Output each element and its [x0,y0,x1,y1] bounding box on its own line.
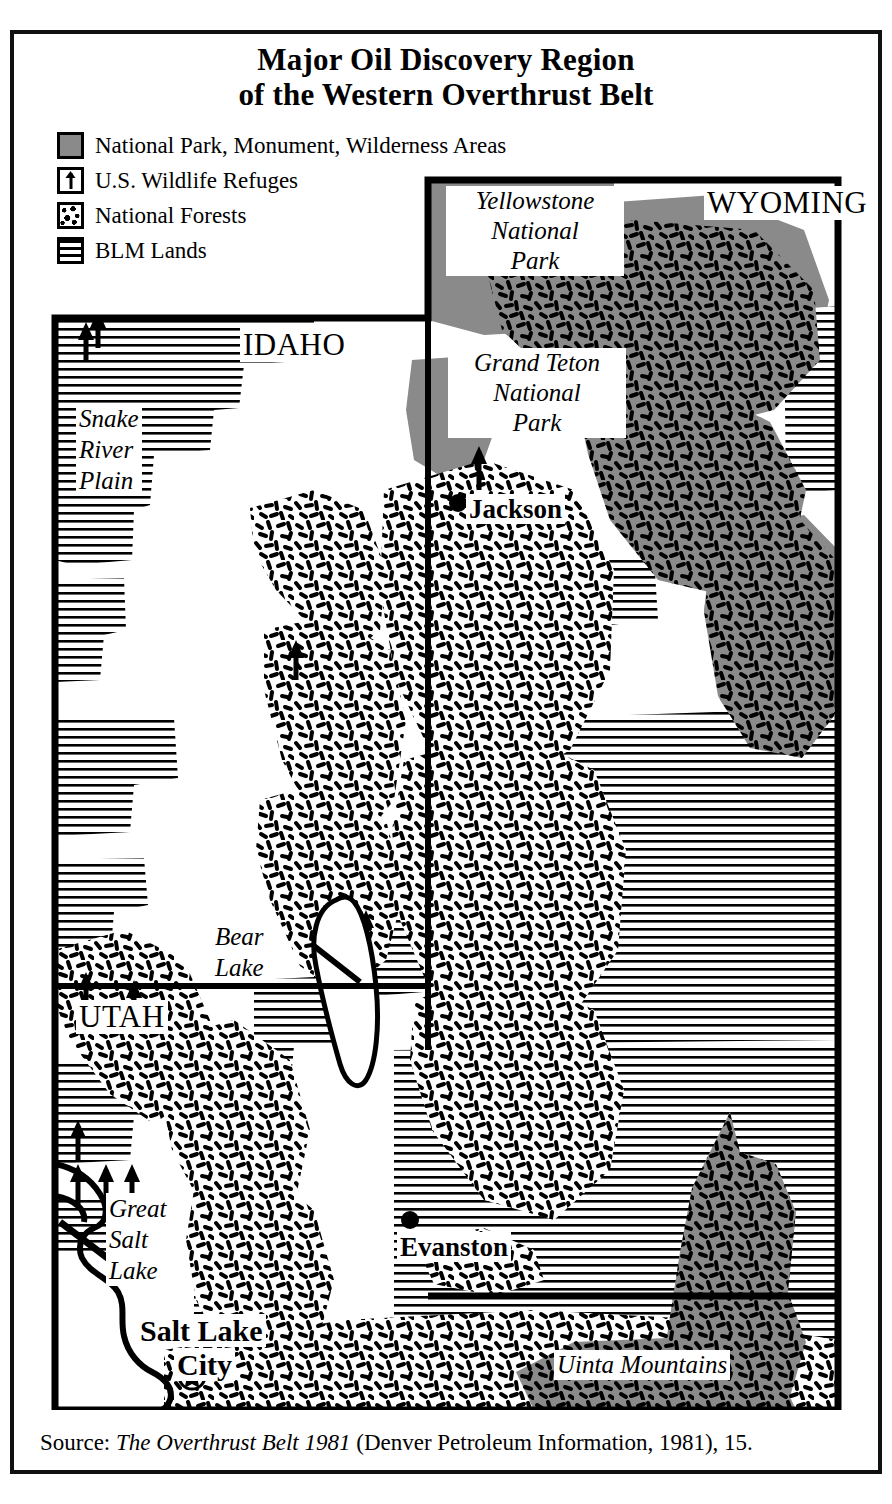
frame-border-right [878,30,882,1474]
map-canvas: Yellowstone National Park Grand Teton Na… [14,160,878,1410]
figure-page: Major Oil Discovery Region of the Wester… [0,0,892,1504]
legend-label-national-park: National Park, Monument, Wilderness Area… [95,134,506,157]
label-line-2: Salt [109,1226,148,1253]
label-line-1: Yellowstone [476,187,595,214]
label-bear-lake: Bear Lake [212,921,267,983]
frame-border-bottom [10,1470,882,1474]
label-state-idaho: IDAHO [240,328,348,362]
label-city-evanston: Evanston [397,1232,511,1262]
title-line-2: of the Western Overthrust Belt [14,77,878,112]
figure-title: Major Oil Discovery Region of the Wester… [14,42,878,112]
label-state-wyoming: WYOMING [704,186,870,220]
label-yellowstone-national-park: Yellowstone National Park [446,186,624,276]
label-line-1: Bear [215,923,264,950]
label-line-2: River [79,436,133,463]
source-caption: Source: The Overthrust Belt 1981 (Denver… [40,1430,860,1456]
source-title: The Overthrust Belt 1981 [116,1430,350,1455]
label-line-1: Snake [79,405,139,432]
top-rule [10,30,882,34]
source-prefix: Source: [40,1430,116,1455]
label-line-2: National [491,217,579,244]
label-line-3: Park [513,409,562,436]
title-line-1: Major Oil Discovery Region [14,42,878,77]
label-line-1: Grand Teton [474,349,600,376]
label-city-jackson: Jackson [466,494,565,524]
label-line-1: Great [109,1195,166,1222]
label-line-2: Lake [215,954,264,981]
label-line-2: National [493,379,581,406]
label-line-3: Lake [109,1257,158,1284]
label-grand-teton-national-park: Grand Teton National Park [448,348,626,438]
legend-swatch-national-park-icon [57,132,84,159]
label-line-3: Plain [79,467,133,494]
label-great-salt-lake: Great Salt Lake [106,1193,169,1286]
city-dot-evanston [401,1211,419,1229]
legend-item-national-park: National Park, Monument, Wilderness Area… [57,128,577,163]
label-line-3: Park [511,247,560,274]
label-uinta-mountains: Uinta Mountains [554,1350,730,1380]
label-state-utah: UTAH [76,1000,168,1034]
label-snake-river-plain: Snake River Plain [76,403,142,496]
label-city-salt-lake-city-line-1: Salt Lake [137,1314,266,1347]
label-city-salt-lake-city-line-2: City [174,1348,235,1381]
city-dot-jackson [449,494,467,512]
source-rest: (Denver Petroleum Information, 1981), 15… [350,1430,752,1455]
